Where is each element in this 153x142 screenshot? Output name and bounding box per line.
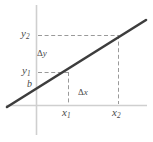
label-delta-x: Δx (78, 88, 88, 97)
label-y1: y1 (22, 65, 31, 78)
label-x1: x1 (62, 107, 71, 120)
label-y2: y2 (21, 28, 30, 41)
label-y-intercept: b (27, 79, 32, 89)
label-x2: x2 (112, 107, 121, 120)
label-delta-y: Δy (37, 49, 47, 58)
slope-diagram-figure: y2 y1 b Δy Δx x1 x2 (0, 0, 153, 142)
